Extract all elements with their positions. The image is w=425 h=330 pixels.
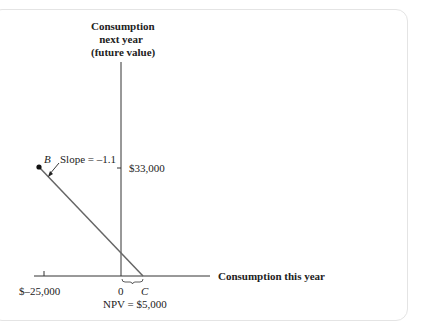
point-c-label: C [141,285,148,297]
y-axis-label-line2: next year [91,33,151,45]
x-tick-label-minus-25000: $–25,000 [19,285,60,297]
slope-arrowhead-icon [48,171,53,177]
point-b-label: B [44,153,51,165]
y-axis-label-line3: (future value) [91,46,151,58]
y-axis-label-line1: Consumption [91,20,151,32]
slope-label: Slope = –1.1 [60,153,116,165]
x-axis-label: Consumption this year [218,270,325,282]
npv-brace [122,279,143,284]
npv-label: NPV = $5,000 [103,298,167,310]
investment-line [39,167,143,276]
point-b-marker [36,164,41,169]
y-tick-label-33000: $33,000 [129,162,165,174]
chart-canvas [0,0,425,330]
origin-label: 0 [118,285,124,297]
